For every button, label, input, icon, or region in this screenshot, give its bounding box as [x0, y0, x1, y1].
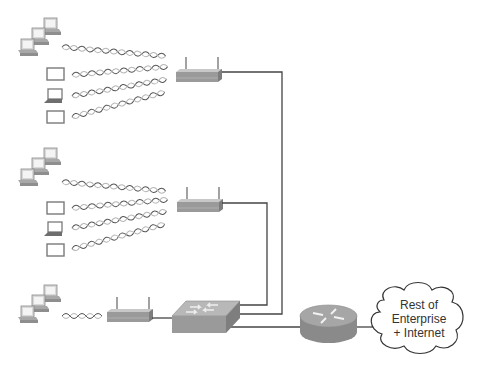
wireless-signal-icon [62, 180, 166, 194]
wireless-signal-icon [72, 209, 167, 231]
wireless-signal-icon [72, 197, 168, 210]
laptop-icon[interactable] [44, 89, 62, 103]
ap2-to-switch-link [222, 203, 267, 305]
wireless-signal-icon [62, 314, 102, 319]
enterprise-internet-cloud[interactable]: Rest of Enterprise + Internet [371, 283, 463, 354]
cloud-label-line-3: + Internet [393, 326, 445, 340]
wireless-signal-icon [71, 222, 165, 252]
network-diagram: Rest of Enterprise + Internet [0, 0, 486, 366]
tablet-icon[interactable] [47, 111, 64, 123]
wireless-signal-icon [62, 45, 166, 59]
laptop-icon[interactable] [44, 222, 62, 236]
wireless-group-3 [18, 285, 153, 323]
tablet-icon[interactable] [47, 68, 64, 80]
desktop-stack-icon[interactable] [18, 285, 61, 323]
wireless-signal-icon [72, 77, 167, 99]
wireless-group-2 [18, 148, 223, 256]
desktop-stack-icon[interactable] [18, 148, 61, 186]
cloud-label-line-2: Enterprise [392, 312, 447, 326]
ap1-to-switch-link [222, 72, 282, 314]
cloud-label-line-1: Rest of [400, 298, 439, 312]
access-point-2-icon[interactable] [177, 187, 223, 212]
tablet-icon[interactable] [47, 202, 64, 214]
switch-icon[interactable] [172, 301, 240, 333]
access-point-3-icon[interactable] [107, 297, 153, 322]
wireless-signal-icon [72, 64, 168, 77]
router-icon[interactable] [300, 305, 357, 343]
wireless-signal-icon [71, 90, 165, 120]
wireless-group-1 [18, 18, 222, 123]
desktop-stack-icon[interactable] [18, 18, 61, 56]
tablet-icon[interactable] [47, 244, 64, 256]
access-point-1-icon[interactable] [176, 57, 222, 82]
